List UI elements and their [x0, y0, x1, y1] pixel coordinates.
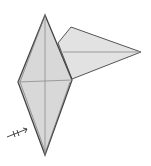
origami-diagram — [0, 0, 151, 166]
right-flap — [58, 27, 141, 79]
origami-figure — [0, 0, 151, 166]
repeat-arrow-icon — [7, 128, 27, 137]
